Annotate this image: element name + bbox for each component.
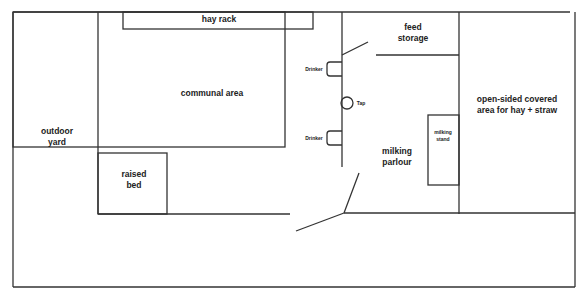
milking-parlour-label: milking parlour xyxy=(382,146,412,169)
drinker-top-label: Drinker xyxy=(305,66,323,73)
feed-storage-label: feed storage xyxy=(398,22,429,45)
raised-bed-label: raised bed xyxy=(121,169,146,192)
open-sided-area-label: open-sided covered area for hay + straw xyxy=(477,94,557,117)
outdoor-yard-label: outdoor yard xyxy=(41,126,73,149)
communal-area-label: communal area xyxy=(181,88,243,99)
hay-rack-label: hay rack xyxy=(202,14,237,25)
drinker-bottom-label: Drinker xyxy=(305,135,323,142)
floor-plan-lines xyxy=(0,0,585,296)
milking-stand-label: milking stand xyxy=(434,129,452,143)
tap-label: Tap xyxy=(357,100,366,107)
